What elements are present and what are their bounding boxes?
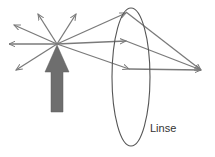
- ray-from-lens-middle: [126, 41, 201, 70]
- lens-outline: [112, 8, 150, 146]
- rays-to-lens: [57, 13, 129, 69]
- converging-rays: [126, 12, 201, 70]
- ray-to-lens-lower: [57, 44, 129, 69]
- ray-from-lens-top: [126, 12, 201, 70]
- ray-to-lens-middle: [57, 41, 126, 44]
- lens-diagram: Linse: [0, 0, 215, 157]
- ray-from-lens-lower: [129, 69, 201, 70]
- object-arrow-icon: [45, 45, 69, 112]
- diverging-rays: [9, 14, 76, 70]
- lens-label: Linse: [150, 122, 176, 134]
